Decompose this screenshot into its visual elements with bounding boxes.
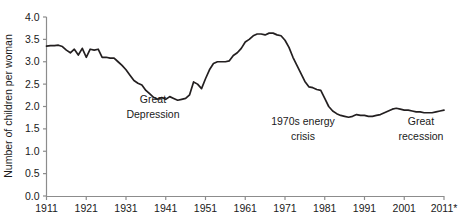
x-tick-label: 1971 (273, 202, 297, 214)
x-tick-label: 1931 (114, 202, 138, 214)
x-tick-label: 2011* (431, 202, 458, 214)
x-tick-label: 1981 (313, 202, 337, 214)
x-tick-label: 1951 (194, 202, 218, 214)
annotation-label: Depression (126, 108, 179, 120)
x-tick-label: 1991 (353, 202, 377, 214)
y-axis: 0.00.51.01.52.02.53.03.54.0 (25, 11, 47, 202)
annotation-label: Great (140, 93, 166, 105)
fertility-rate-chart: 0.00.51.01.52.02.53.03.54.0 191119211931… (0, 0, 458, 222)
y-tick-label: 0.0 (25, 190, 40, 202)
y-axis-ticks: 0.00.51.01.52.02.53.03.54.0 (25, 11, 47, 202)
x-tick-label: 1911 (35, 202, 58, 214)
y-tick-label: 0.5 (25, 167, 40, 179)
chart-svg: 0.00.51.01.52.02.53.03.54.0 191119211931… (0, 0, 458, 222)
x-axis-ticks: 1911192119311941195119611971198119912001… (35, 196, 457, 214)
y-tick-label: 3.5 (25, 33, 40, 45)
chart-annotations: GreatDepression1970s energycrisisGreatre… (126, 93, 443, 142)
annotation-label: recession (399, 130, 444, 142)
y-tick-label: 2.5 (25, 78, 40, 90)
x-axis: 1911192119311941195119611971198119912001… (35, 196, 457, 214)
fertility-rate-line (47, 33, 445, 117)
y-axis-title-group: Number of children per woman (2, 34, 14, 178)
x-tick-label: 1941 (154, 202, 178, 214)
y-tick-label: 1.0 (25, 145, 40, 157)
annotation-label: Great (408, 115, 434, 127)
x-tick-label: 2001 (393, 202, 417, 214)
y-tick-label: 4.0 (25, 11, 40, 23)
y-tick-label: 2.0 (25, 100, 40, 112)
annotation-label: 1970s energy (271, 115, 335, 127)
y-axis-title: Number of children per woman (2, 34, 14, 178)
y-tick-label: 1.5 (25, 122, 40, 134)
annotation-label: crisis (291, 130, 315, 142)
y-tick-label: 3.0 (25, 55, 40, 67)
x-tick-label: 1961 (234, 202, 258, 214)
x-tick-label: 1921 (75, 202, 99, 214)
